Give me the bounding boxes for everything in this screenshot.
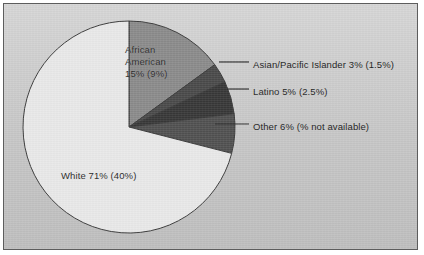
slice-label-african-american: African American 15% (9%) (125, 44, 191, 80)
slice-label-african-american-line2: American (125, 56, 166, 67)
slice-label-african-american-line1: African (125, 44, 155, 55)
callout-label-asian-pacific-islander: Asian/Pacific Islander 3% (1.5%) (253, 59, 394, 70)
pie-chart: African American 15% (9%) White 71% (40%… (4, 4, 417, 249)
slice-label-african-american-line3: 15% (9%) (125, 68, 168, 79)
callout-label-latino: Latino 5% (2.5%) (253, 86, 327, 97)
chart-panel: African American 15% (9%) White 71% (40%… (3, 3, 418, 250)
callout-label-other: Other 6% (% not available) (253, 121, 369, 132)
screenshot-root: African American 15% (9%) White 71% (40%… (0, 0, 424, 255)
slice-label-white: White 71% (40%) (61, 170, 136, 182)
